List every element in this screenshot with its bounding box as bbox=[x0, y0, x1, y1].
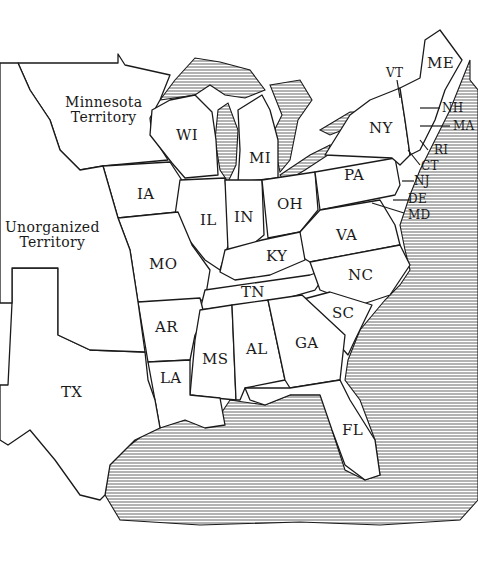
label-la: LA bbox=[160, 371, 181, 386]
label-in: IN bbox=[234, 210, 254, 225]
label-me: ME bbox=[427, 56, 454, 71]
label-ma: MA bbox=[453, 120, 475, 132]
label-ia: IA bbox=[137, 187, 154, 202]
map: MinnesotaTerritory UnorganizedTerritory … bbox=[0, 0, 478, 571]
label-ny: NY bbox=[369, 121, 393, 136]
label-al: AL bbox=[246, 342, 267, 357]
label-de: DE bbox=[408, 193, 427, 205]
label-ky: KY bbox=[266, 249, 287, 264]
label-ga: GA bbox=[295, 336, 318, 351]
lake-superior bbox=[160, 58, 265, 100]
label-il: IL bbox=[200, 213, 217, 228]
label-vt: VT bbox=[386, 67, 403, 79]
label-pa: PA bbox=[344, 168, 364, 183]
label-tx: TX bbox=[61, 385, 82, 400]
label-mo: MO bbox=[149, 257, 177, 272]
label-oh: OH bbox=[277, 197, 303, 212]
region-mi bbox=[238, 95, 278, 182]
label-unorganized-territory: UnorganizedTerritory bbox=[5, 220, 100, 251]
label-fl: FL bbox=[342, 423, 363, 438]
label-va: VA bbox=[336, 228, 357, 243]
label-ar: AR bbox=[155, 320, 178, 335]
label-md: MD bbox=[408, 209, 431, 221]
label-mi: MI bbox=[249, 151, 271, 166]
label-nh: NH bbox=[442, 102, 464, 114]
lake-michigan bbox=[215, 103, 238, 182]
label-ms: MS bbox=[202, 352, 228, 367]
label-wi: WI bbox=[176, 128, 198, 143]
map-svg bbox=[0, 0, 478, 571]
label-tn: TN bbox=[241, 285, 265, 300]
label-nj: NJ bbox=[414, 175, 430, 187]
label-ri: RI bbox=[434, 144, 448, 156]
label-sc: SC bbox=[332, 306, 354, 321]
label-nc: NC bbox=[348, 268, 373, 283]
label-ct: CT bbox=[421, 160, 439, 172]
label-minnesota-territory: MinnesotaTerritory bbox=[65, 95, 142, 126]
